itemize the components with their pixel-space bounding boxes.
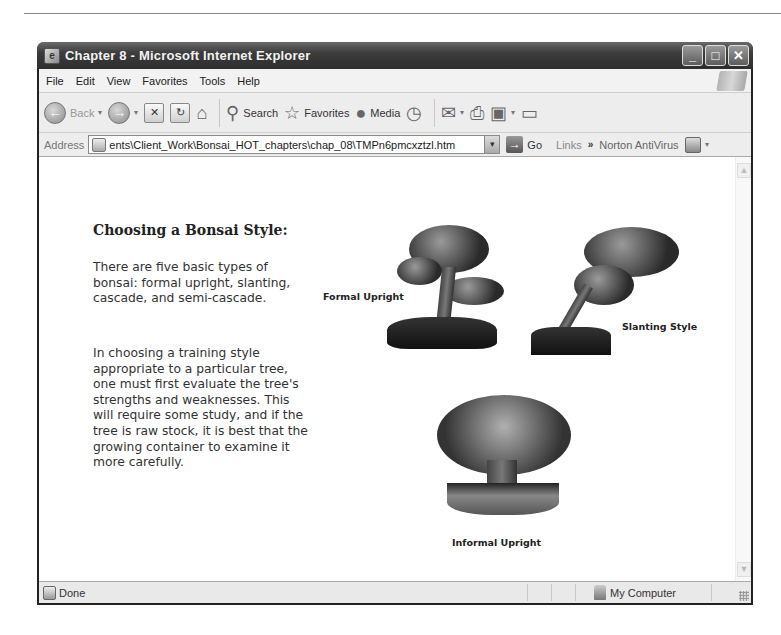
menu-file[interactable]: File [39,75,70,87]
stop-button[interactable]: ✕ [144,103,164,123]
discuss-button[interactable]: ▭ [521,103,538,123]
resize-grip[interactable] [739,591,749,601]
slanting-style-caption: Slanting Style [622,321,697,332]
window-title: Chapter 8 - Microsoft Internet Explorer [65,48,310,63]
page-content: Choosing a Bonsai Style: There are five … [39,157,751,582]
chevron-down-icon[interactable]: ▾ [511,108,515,117]
ie-page-icon: e [44,48,60,64]
search-label: Search [243,107,278,119]
formal-upright-caption: Formal Upright [323,291,404,302]
media-button[interactable]: ● Media [355,103,400,123]
minimize-button[interactable]: _ [682,45,703,66]
history-icon: ◷ [406,103,422,123]
scroll-down-button[interactable]: ▼ [737,562,751,577]
refresh-button[interactable]: ↻ [170,103,190,123]
search-icon: ⚲ [226,103,239,123]
close-button[interactable]: ✕ [728,45,749,66]
chevron-down-icon[interactable]: ▾ [705,140,709,149]
menu-bar: File Edit View Favorites Tools Help [39,69,751,93]
discuss-icon: ▭ [521,103,538,123]
page-done-icon [43,586,56,600]
media-label: Media [370,107,400,119]
status-divider [575,584,576,601]
address-input[interactable]: ents\Client_Work\Bonsai_HOT_chapters\cha… [88,135,500,154]
norton-antivirus-button[interactable]: Norton AntiVirus [599,139,678,151]
favorites-label: Favorites [304,107,349,119]
menu-help[interactable]: Help [231,75,266,87]
stop-icon: ✕ [144,103,164,123]
print-icon: ⎙ [470,103,484,123]
media-icon: ● [355,103,366,123]
status-divider [711,584,712,601]
slanting-style-image [529,227,689,357]
chevron-down-icon[interactable]: ▾ [460,108,464,117]
go-arrow-icon: → [506,136,523,153]
page-heading: Choosing a Bonsai Style: [93,222,288,238]
norton-icon[interactable] [685,137,701,153]
page-icon [92,138,106,152]
back-button[interactable]: ← Back ▾ [44,102,102,124]
toolbar-separator [434,99,435,127]
chevron-down-icon[interactable]: ▾ [134,108,138,117]
informal-upright-caption: Informal Upright [452,537,541,548]
print-button[interactable]: ⎙ [470,103,484,123]
home-icon: ⌂ [196,103,207,123]
top-divider [24,13,781,14]
links-chevron-icon[interactable]: » [588,139,594,150]
training-style-paragraph: In choosing a training style appropriate… [93,346,308,471]
window-controls: _ □ ✕ [682,45,749,66]
vertical-scrollbar[interactable]: ▲ ▼ [735,157,751,581]
history-button[interactable]: ◷ [406,103,422,123]
browser-window: e Chapter 8 - Microsoft Internet Explore… [37,42,753,605]
mail-icon: ✉ [441,103,456,123]
links-button[interactable]: Links [556,139,582,151]
edit-button[interactable]: ▣ ▾ [490,103,515,123]
maximize-button[interactable]: □ [705,45,726,66]
windows-logo-icon [716,71,748,91]
refresh-icon: ↻ [170,103,190,123]
address-dropdown-icon[interactable]: ▾ [484,136,499,153]
informal-upright-image [429,395,579,525]
title-bar[interactable]: e Chapter 8 - Microsoft Internet Explore… [37,42,753,69]
status-divider [527,584,528,601]
back-arrow-icon: ← [44,102,66,124]
address-value[interactable]: ents\Client_Work\Bonsai_HOT_chapters\cha… [109,139,484,151]
star-icon: ☆ [284,103,300,123]
scroll-up-button[interactable]: ▲ [737,163,751,178]
status-bar: Done My Computer [39,582,751,603]
edit-icon: ▣ [490,103,507,123]
back-label: Back [70,107,94,119]
intro-paragraph: There are five basic types of bonsai: fo… [93,260,308,307]
menu-edit[interactable]: Edit [70,75,101,87]
search-button[interactable]: ⚲ Search [226,103,278,123]
forward-arrow-icon: → [108,102,130,124]
toolbar-separator [219,99,220,127]
status-text: Done [59,587,85,599]
forward-button[interactable]: → ▾ [108,102,138,124]
menu-view[interactable]: View [101,75,137,87]
my-computer-icon [594,585,606,600]
standard-toolbar: ← Back ▾ → ▾ ✕ ↻ ⌂ ⚲ Search ☆ Favorites … [39,93,751,133]
go-label: Go [527,139,542,151]
menu-tools[interactable]: Tools [194,75,232,87]
home-button[interactable]: ⌂ [196,103,207,123]
zone-label: My Computer [610,587,676,599]
mail-button[interactable]: ✉ ▾ [441,103,464,123]
favorites-button[interactable]: ☆ Favorites [284,103,349,123]
address-bar: Address ents\Client_Work\Bonsai_HOT_chap… [39,133,751,157]
security-zone: My Computer [594,585,676,600]
status-divider [551,584,552,601]
chevron-down-icon[interactable]: ▾ [98,108,102,117]
go-button[interactable]: → Go [506,136,542,153]
menu-favorites[interactable]: Favorites [136,75,193,87]
formal-upright-image [379,217,509,357]
address-label: Address [39,139,84,151]
